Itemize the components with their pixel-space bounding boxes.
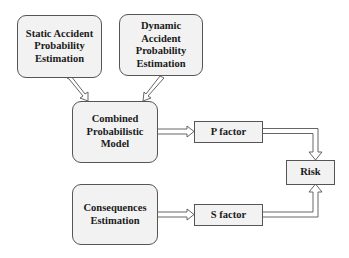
node-label: Dynamic Accident Probability Estimation xyxy=(120,20,202,70)
node-label: Risk xyxy=(300,166,320,179)
node-label: Consequences Estimation xyxy=(73,202,157,227)
risk-node: Risk xyxy=(286,160,335,185)
node-label: Combined Probabilistic Model xyxy=(73,113,157,151)
combined-probabilistic-model-node: Combined Probabilistic Model xyxy=(72,101,158,163)
arrow-combined-to-pfactor xyxy=(157,126,194,137)
arrow-static-to-combined xyxy=(67,76,88,101)
node-label: Static Accident Probability Estimation xyxy=(18,28,101,66)
arrow-dynamic-to-combined xyxy=(143,76,164,101)
node-label: P factor xyxy=(211,126,246,139)
arrow-consequences-to-sfactor xyxy=(157,209,194,220)
arrow-sfactor-to-risk xyxy=(262,184,322,217)
p-factor-node: P factor xyxy=(194,121,263,143)
consequences-estimation-node: Consequences Estimation xyxy=(72,184,158,245)
arrow-pfactor-to-risk xyxy=(262,129,322,161)
dynamic-accident-probability-node: Dynamic Accident Probability Estimation xyxy=(119,14,203,76)
node-label: S factor xyxy=(211,209,246,222)
s-factor-node: S factor xyxy=(194,204,263,226)
static-accident-probability-node: Static Accident Probability Estimation xyxy=(17,15,102,78)
